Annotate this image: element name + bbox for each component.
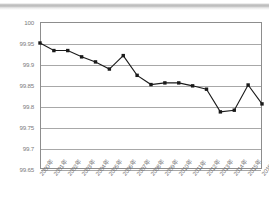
x-axis-tick-label: 2001年 bbox=[51, 158, 69, 178]
x-axis-tick-label: 2008年 bbox=[148, 158, 166, 178]
x-axis-tick-label: 2002年 bbox=[65, 158, 83, 178]
x-axis-tick-labels: 2000年2001年2002年2003年2004年2005年2006年2007年… bbox=[0, 0, 269, 212]
x-axis-tick-label: 2009年 bbox=[162, 158, 180, 178]
x-axis-tick-label: 2010年 bbox=[176, 158, 194, 178]
x-axis-tick-label: 2000年 bbox=[37, 158, 55, 178]
line-chart: 10099.9599.999.8599.899.7599.799.65 2000… bbox=[0, 0, 269, 212]
